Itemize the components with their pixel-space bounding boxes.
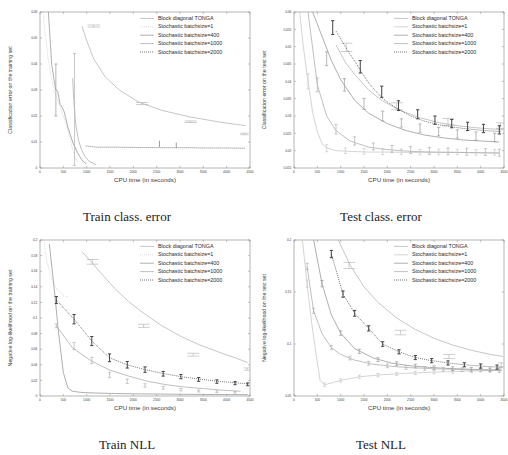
x-tick-label: 500 bbox=[315, 398, 321, 402]
x-tick-label: 4500 bbox=[500, 398, 507, 402]
y-tick-label: 0.06 bbox=[31, 347, 37, 351]
x-tick-label: 3500 bbox=[200, 398, 207, 402]
y-tick-label: 0.06 bbox=[31, 10, 37, 14]
series-line bbox=[86, 146, 246, 148]
x-tick-label: 1000 bbox=[83, 398, 90, 402]
legend-label: Block diagonal TONGA bbox=[412, 15, 468, 21]
y-tick-label: 0.04 bbox=[285, 80, 291, 84]
panel-train-class-error: 05001000150020002500300035004000450000.0… bbox=[0, 0, 254, 227]
y-tick-label: 0.15 bbox=[285, 290, 291, 294]
x-tick-label: 3500 bbox=[200, 170, 207, 174]
x-tick-label: 500 bbox=[61, 398, 67, 402]
figure-grid: 05001000150020002500300035004000450000.0… bbox=[0, 0, 508, 455]
legend-label: Stochastic batchsize=1 bbox=[412, 251, 467, 257]
series-line bbox=[56, 300, 247, 384]
caption-train-class-error: Train class. error bbox=[0, 209, 254, 225]
x-axis-label: CPU time (in seconds) bbox=[114, 176, 176, 183]
x-tick-label: 3000 bbox=[176, 170, 183, 174]
y-tick-label: 0.1 bbox=[33, 316, 38, 320]
legend-label: Stochastic batchsize=400 bbox=[158, 32, 219, 38]
series-group bbox=[302, 240, 504, 387]
y-tick-label: 0 bbox=[36, 394, 38, 398]
x-tick-label: 500 bbox=[61, 170, 67, 174]
x-tick-label: 2000 bbox=[130, 170, 137, 174]
y-axis-label: Classification error on the training set bbox=[7, 46, 13, 134]
legend-label: Stochastic batchsize=2000 bbox=[412, 49, 476, 55]
x-tick-label: 0 bbox=[293, 170, 295, 174]
y-tick-label: 0.045 bbox=[283, 62, 291, 66]
y-tick-label: 0.06 bbox=[285, 10, 291, 14]
y-tick-label: 0.05 bbox=[285, 45, 291, 49]
series-group bbox=[300, 12, 504, 156]
x-axis-label: CPU time (in seconds) bbox=[368, 404, 430, 411]
x-tick-label: 1500 bbox=[360, 398, 367, 402]
series-line bbox=[49, 244, 247, 395]
x-tick-label: 4500 bbox=[246, 398, 253, 402]
x-tick-label: 3000 bbox=[430, 170, 437, 174]
panel-train-nll: 05001000150020002500300035004000450000.0… bbox=[0, 228, 254, 455]
caption-test-nll: Test NLL bbox=[254, 437, 508, 453]
legend-label: Stochastic batchsize=1 bbox=[158, 251, 213, 257]
series-line bbox=[56, 326, 240, 392]
plot-area-train-nll: 05001000150020002500300035004000450000.0… bbox=[0, 228, 254, 428]
x-tick-label: 4000 bbox=[477, 398, 484, 402]
x-tick-label: 2000 bbox=[384, 398, 391, 402]
x-tick-label: 1500 bbox=[106, 170, 113, 174]
series-line bbox=[44, 240, 68, 297]
y-tick-label: 0.02 bbox=[31, 379, 37, 383]
x-tick-label: 2000 bbox=[130, 398, 137, 402]
legend-label: Stochastic batchsize=400 bbox=[412, 32, 473, 38]
x-tick-label: 1000 bbox=[83, 170, 90, 174]
legend-label: Stochastic batchsize=400 bbox=[158, 260, 219, 266]
legend-label: Stochastic batchsize=1000 bbox=[158, 268, 222, 274]
y-tick-label: 0.05 bbox=[31, 36, 37, 40]
series-line bbox=[338, 240, 503, 356]
x-tick-label: 2500 bbox=[407, 398, 414, 402]
y-tick-label: 0.14 bbox=[31, 285, 37, 289]
chart-root-3: 0500100015002000250030003500400045000.05… bbox=[261, 238, 508, 410]
x-tick-label: 1000 bbox=[337, 170, 344, 174]
legend-label: Stochastic batchsize=400 bbox=[412, 260, 473, 266]
y-tick-label: 0.12 bbox=[31, 301, 37, 305]
y-tick-label: 0.03 bbox=[285, 114, 291, 118]
y-tick-label: 0.18 bbox=[31, 254, 37, 258]
chart-root-2: 05001000150020002500300035004000450000.0… bbox=[7, 238, 254, 410]
caption-test-class-error: Test class. error bbox=[254, 209, 508, 225]
y-tick-label: 0.02 bbox=[285, 149, 291, 153]
plot-area-train-class-error: 05001000150020002500300035004000450000.0… bbox=[0, 0, 254, 200]
x-tick-label: 3500 bbox=[454, 398, 461, 402]
x-axis-label: CPU time (in seconds) bbox=[114, 404, 176, 411]
x-tick-label: 3000 bbox=[176, 398, 183, 402]
x-tick-label: 2500 bbox=[153, 170, 160, 174]
svg-test-class-error: 0500100015002000250030003500400045000.01… bbox=[254, 0, 508, 200]
y-axis-label: Negative log-likelihood on the training … bbox=[7, 269, 13, 366]
x-tick-label: 3500 bbox=[454, 170, 461, 174]
x-tick-label: 500 bbox=[315, 170, 321, 174]
y-tick-label: 0.01 bbox=[31, 140, 37, 144]
y-tick-label: 0.02 bbox=[31, 114, 37, 118]
legend-label: Block diagonal TONGA bbox=[158, 15, 214, 21]
panel-test-nll: 0500100015002000250030003500400045000.05… bbox=[254, 228, 508, 455]
x-axis-label: CPU time (in seconds) bbox=[368, 176, 430, 183]
x-tick-label: 1000 bbox=[337, 398, 344, 402]
x-tick-label: 0 bbox=[39, 170, 41, 174]
x-tick-label: 4000 bbox=[477, 170, 484, 174]
y-tick-label: 0.08 bbox=[31, 332, 37, 336]
x-tick-label: 2500 bbox=[153, 398, 160, 402]
y-tick-label: 0.1 bbox=[287, 342, 292, 346]
plot-area-test-nll: 0500100015002000250030003500400045000.05… bbox=[254, 228, 508, 428]
legend-label: Stochastic batchsize=1000 bbox=[158, 40, 222, 46]
series-line bbox=[336, 45, 504, 130]
legend-label: Block diagonal TONGA bbox=[412, 243, 468, 249]
x-tick-label: 0 bbox=[39, 398, 41, 402]
series-line bbox=[48, 12, 86, 164]
y-axis-label: Negative log-likelihood on the test set bbox=[261, 273, 267, 362]
y-axis-label: Classification error on the test set bbox=[261, 50, 267, 129]
y-tick-label: 0.16 bbox=[31, 269, 37, 273]
y-tick-label: 0.035 bbox=[283, 97, 291, 101]
x-tick-label: 1500 bbox=[106, 398, 113, 402]
plot-area-test-class-error: 0500100015002000250030003500400045000.01… bbox=[254, 0, 508, 200]
y-tick-label: 0 bbox=[36, 166, 38, 170]
legend-label: Stochastic batchsize=1000 bbox=[412, 268, 476, 274]
legend-label: Stochastic batchsize=2000 bbox=[412, 277, 476, 283]
